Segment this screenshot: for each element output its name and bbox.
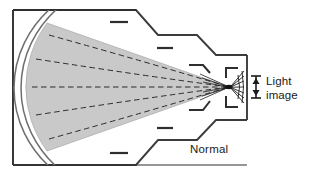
light-image-label-line2: image <box>266 89 298 101</box>
eye-optics-diagram: Light image Normal <box>0 0 309 175</box>
normal-label: Normal <box>190 143 228 155</box>
light-image-label-line1: Light <box>266 75 292 87</box>
diagram-canvas: Light image Normal <box>0 0 309 175</box>
